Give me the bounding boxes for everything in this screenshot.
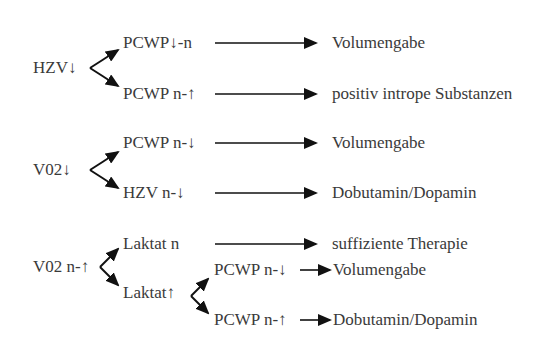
root-v02-down: V02↓	[33, 160, 71, 180]
condition-pcwp-n-up: PCWP n-↑	[123, 84, 196, 104]
condition-pcwp-n-down: PCWP n-↓	[123, 133, 196, 153]
fork-arrows-laktat-up	[191, 279, 208, 313]
condition-laktat-n: Laktat n	[123, 234, 179, 254]
condition-hzv-n-down: HZV n-↓	[123, 183, 185, 203]
root-v02-n-up: V02 n-↑	[33, 257, 89, 277]
action-suffiziente-therapie: suffiziente Therapie	[332, 234, 468, 254]
action-arrows-group1	[215, 43, 316, 94]
condition-laktat-up: Laktat↑	[123, 283, 175, 303]
action-volumengabe: Volumengabe	[332, 133, 425, 153]
condition-pcwp-down-n: PCWP↓-n	[123, 33, 192, 53]
action-dobutamin-dopamin: Dobutamin/Dopamin	[332, 183, 476, 203]
fork-arrows-hzv	[90, 50, 118, 86]
arrows-layer	[0, 0, 548, 348]
action-dobutamin-dopamin: Dobutamin/Dopamin	[333, 310, 477, 330]
condition-pcwp-n-up: PCWP n-↑	[214, 310, 287, 330]
action-positiv-intrope-substanzen: positiv intrope Substanzen	[332, 84, 512, 104]
fork-arrows-v02-n-up	[100, 249, 118, 285]
fork-arrows-v02	[90, 152, 118, 188]
action-volumengabe: Volumengabe	[333, 260, 426, 280]
condition-pcwp-n-down: PCWP n-↓	[214, 260, 287, 280]
action-arrows-laktat-up	[300, 270, 330, 320]
action-arrows-group2	[215, 143, 316, 193]
root-hzv-down: HZV↓	[33, 58, 76, 78]
action-volumengabe: Volumengabe	[332, 33, 425, 53]
